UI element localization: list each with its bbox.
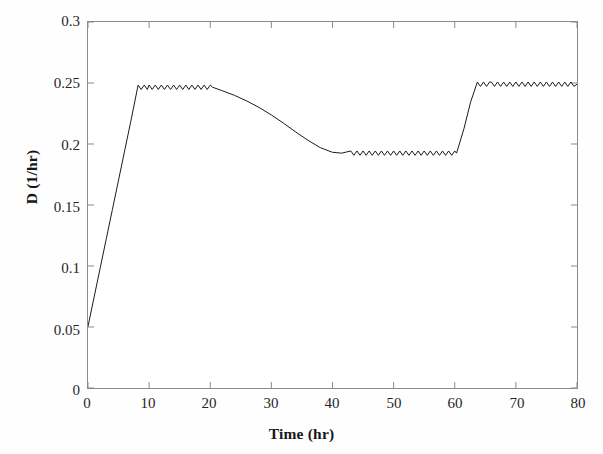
- y-tick-label-0.3: 0.3: [35, 14, 80, 29]
- x-tick-label-40: 40: [312, 396, 352, 411]
- x-tick-label-10: 10: [128, 396, 168, 411]
- plot-area: [87, 21, 578, 389]
- x-tick-label-20: 20: [189, 396, 229, 411]
- x-tick-label-30: 30: [251, 396, 291, 411]
- y-tick-label-0.15: 0.15: [35, 200, 80, 215]
- x-axis-title: Time (hr): [0, 425, 603, 443]
- data-line-D: [88, 82, 577, 326]
- y-axis-title: D (1/hr): [23, 117, 41, 237]
- x-tick-label-0: 0: [67, 396, 107, 411]
- y-tick-label-0.1: 0.1: [35, 261, 80, 276]
- x-tick-label-70: 70: [497, 396, 537, 411]
- y-tick-label-0.05: 0.05: [35, 323, 80, 338]
- axis-ticks: [88, 22, 577, 388]
- y-tick-label-0.25: 0.25: [35, 76, 80, 91]
- x-tick-label-50: 50: [374, 396, 414, 411]
- x-tick-label-80: 80: [558, 396, 598, 411]
- figure-canvas: D (1/hr) 0.3 0.25 0.2 0.15 0.1 0.05 0 0 …: [0, 0, 603, 454]
- plot-svg: [88, 22, 577, 388]
- x-tick-label-60: 60: [435, 396, 475, 411]
- y-tick-label-0.2: 0.2: [35, 138, 80, 153]
